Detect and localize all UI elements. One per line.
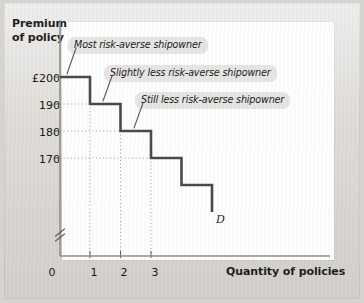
leader-line-most xyxy=(67,48,76,74)
leader-line-still xyxy=(134,103,143,128)
x-axis-ticks xyxy=(90,251,151,258)
leader-line-slightly xyxy=(103,76,112,101)
annotation-leader-lines xyxy=(67,48,143,128)
chart-svg xyxy=(0,0,364,303)
demand-curve xyxy=(60,77,212,212)
